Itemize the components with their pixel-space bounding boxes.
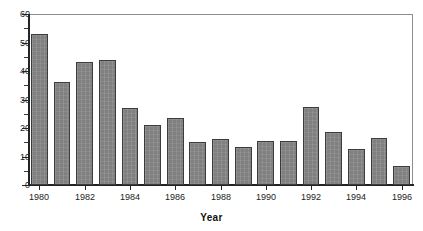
y-tick-minor xyxy=(24,142,28,143)
y-tick-label: 50 xyxy=(4,39,30,48)
y-tick-minor xyxy=(24,57,28,58)
bar xyxy=(54,82,71,185)
y-tick-label: 30 xyxy=(4,96,30,105)
x-tick-label: 1990 xyxy=(246,192,286,202)
x-tick-label: 1986 xyxy=(155,192,195,202)
bar xyxy=(235,147,252,185)
bar-chart: 0102030405060 19801982198419861988199019… xyxy=(0,0,423,231)
x-tick-label: 1988 xyxy=(201,192,241,202)
bar xyxy=(212,139,229,185)
y-tick-label: 10 xyxy=(4,153,30,162)
x-tick xyxy=(311,186,312,190)
bar xyxy=(122,108,139,185)
bar xyxy=(189,142,206,185)
bar xyxy=(167,118,184,185)
x-tick xyxy=(130,186,131,190)
x-tick xyxy=(266,186,267,190)
bar xyxy=(144,125,161,185)
x-tick-label: 1982 xyxy=(65,192,105,202)
x-tick xyxy=(356,186,357,190)
bar xyxy=(257,141,274,185)
y-tick-label: 20 xyxy=(4,124,30,133)
y-tick-minor xyxy=(24,114,28,115)
bar xyxy=(325,132,342,185)
bar xyxy=(31,34,48,185)
x-tick-label: 1984 xyxy=(110,192,150,202)
bar xyxy=(348,149,365,185)
x-tick xyxy=(402,186,403,190)
x-tick xyxy=(39,186,40,190)
bar xyxy=(76,62,93,185)
bar xyxy=(280,141,297,185)
x-tick xyxy=(221,186,222,190)
y-tick-minor xyxy=(24,85,28,86)
y-tick-minor xyxy=(24,28,28,29)
bar xyxy=(371,138,388,185)
y-tick-label: 40 xyxy=(4,67,30,76)
x-tick-label: 1992 xyxy=(291,192,331,202)
x-tick xyxy=(175,186,176,190)
y-tick-minor xyxy=(24,171,28,172)
x-tick-label: 1980 xyxy=(19,192,59,202)
x-tick-label: 1996 xyxy=(382,192,422,202)
x-axis-title: Year xyxy=(0,212,423,223)
x-tick-label: 1994 xyxy=(336,192,376,202)
x-tick xyxy=(85,186,86,190)
y-tick-label: 0 xyxy=(4,181,30,190)
bar xyxy=(393,166,410,185)
bar xyxy=(99,60,116,185)
bar xyxy=(303,107,320,185)
y-tick-label: 60 xyxy=(4,10,30,19)
